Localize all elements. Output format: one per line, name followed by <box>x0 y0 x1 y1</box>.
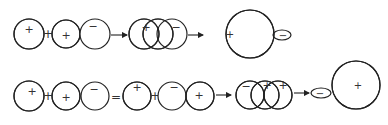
plus-sign: + <box>24 23 33 36</box>
minus-sign: − <box>88 20 97 33</box>
minus-sign: − <box>241 80 250 93</box>
equals-operator: = <box>111 90 121 104</box>
plus-sign: + <box>132 81 141 94</box>
minus-sign: − <box>89 83 98 96</box>
positive-sphere: + <box>52 82 80 110</box>
negative-sphere: − <box>80 19 110 49</box>
association-diagram: + + + − + − <box>0 0 388 125</box>
positive-sphere: + <box>14 81 44 111</box>
minus-sign: − <box>169 81 178 94</box>
plus-sign: + <box>354 80 362 91</box>
positive-sphere: + <box>123 81 151 110</box>
plus-sign: + <box>61 91 70 104</box>
plus-sign: + <box>194 89 203 102</box>
plus-sign: + <box>226 29 234 40</box>
minus-sign: − <box>171 21 180 34</box>
minus-sign: − <box>279 30 287 41</box>
minus-sign: − <box>316 88 324 99</box>
plus-sign: + <box>27 85 36 98</box>
plus-sign: + <box>61 29 70 42</box>
row-2: + + + − = + + − + <box>14 61 380 111</box>
positive-sphere: + <box>186 82 214 110</box>
negative-sphere: − <box>158 81 186 110</box>
plus-sign: + <box>278 79 287 92</box>
row-1: + + + − + − <box>14 10 291 58</box>
large-positive-sphere: + − <box>311 61 380 109</box>
overlap-group: − + + <box>236 79 292 109</box>
overlap-group: + − <box>129 19 187 49</box>
negative-sphere: − <box>81 82 109 110</box>
plus-sign: + <box>141 21 150 34</box>
large-positive-sphere: + − <box>226 10 291 58</box>
plus-sign: + <box>262 79 271 92</box>
positive-sphere: + <box>14 19 44 49</box>
positive-sphere: + <box>52 20 80 48</box>
